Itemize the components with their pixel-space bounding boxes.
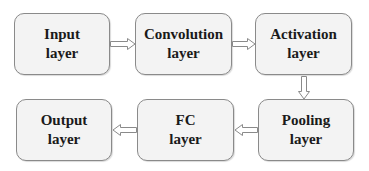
node-label-line2: layer [290, 130, 322, 149]
arrow-right-icon [110, 38, 136, 50]
node-label-line2: layer [287, 44, 319, 63]
node-label-line1: Convolution [144, 25, 223, 44]
node-label-line1: FC [176, 111, 196, 130]
cnn-flow-diagram: Input layer Convolution layer Activation… [0, 0, 369, 171]
node-output-layer: Output layer [16, 99, 112, 161]
node-label-line2: layer [48, 130, 80, 149]
arrow-left-icon [112, 124, 137, 136]
arrow-left-icon [234, 124, 258, 136]
node-activation-layer: Activation layer [255, 13, 352, 75]
node-fc-layer: FC layer [137, 99, 234, 161]
node-label-line1: Output [41, 111, 88, 130]
node-label-line2: layer [46, 44, 78, 63]
arrow-down-icon [298, 76, 310, 100]
node-convolution-layer: Convolution layer [135, 13, 232, 75]
node-pooling-layer: Pooling layer [258, 99, 354, 161]
node-label-line1: Input [44, 25, 80, 44]
node-label-line1: Pooling [282, 111, 330, 130]
node-label-line2: layer [169, 130, 201, 149]
node-label-line1: Activation [270, 25, 337, 44]
node-input-layer: Input layer [14, 13, 110, 75]
node-label-line2: layer [167, 44, 199, 63]
arrow-right-icon [232, 38, 256, 50]
